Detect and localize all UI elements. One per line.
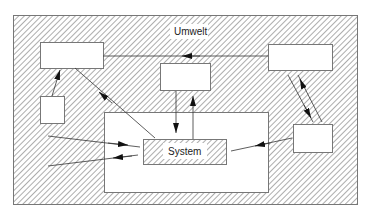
box-top-left bbox=[41, 43, 104, 69]
box-top-center bbox=[161, 64, 211, 91]
environment-label: Umwelt bbox=[174, 26, 208, 37]
box-top-right bbox=[269, 45, 333, 71]
system-label: System bbox=[168, 146, 201, 157]
system-environment-diagram: Umwelt System bbox=[0, 0, 369, 216]
box-small-left bbox=[41, 97, 65, 124]
box-bottom-right bbox=[294, 125, 333, 153]
